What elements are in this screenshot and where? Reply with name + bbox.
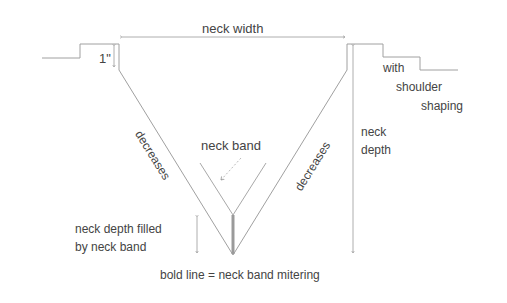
neck-band-label: neck band	[201, 138, 261, 153]
neck-depth-line2: depth	[361, 143, 391, 158]
filled-depth-line2: by neck band	[75, 240, 146, 255]
legend-bold-line: bold line = neck band mitering	[160, 268, 320, 283]
neckline-diagram: neck width 1" with shoulder shaping decr…	[0, 0, 507, 303]
neck-band-right-line	[233, 163, 266, 215]
shoulder-shaping-line1: with	[383, 61, 404, 76]
neck-width-label: neck width	[202, 21, 263, 36]
right-shoulder-line	[233, 44, 458, 255]
filled-depth-line1: neck depth filled	[75, 222, 162, 237]
shoulder-shaping-line2: shoulder	[396, 80, 442, 95]
shoulder-shaping-line3: shaping	[421, 99, 463, 114]
neck-band-pointer-arrow	[221, 158, 241, 180]
neck-depth-line1: neck	[361, 125, 386, 140]
neck-band-left-line	[200, 163, 233, 215]
one-inch-label: 1"	[99, 51, 111, 66]
